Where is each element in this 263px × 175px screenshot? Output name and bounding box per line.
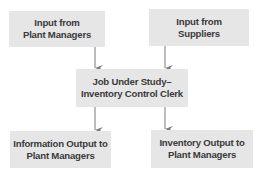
node-label: Job Under Study– Inventory Control Clerk — [81, 76, 183, 100]
node-information-output: Information Output to Plant Managers — [10, 131, 111, 168]
node-label: Inventory Output to Plant Managers — [159, 137, 244, 161]
node-label: Information Output to Plant Managers — [13, 138, 107, 162]
node-job-under-study: Job Under Study– Inventory Control Clerk — [76, 69, 188, 107]
node-label: Input from Plant Managers — [23, 17, 91, 41]
node-label: Input from Suppliers — [176, 16, 221, 40]
node-input-suppliers: Input from Suppliers — [149, 9, 249, 46]
node-input-plant-managers: Input from Plant Managers — [9, 11, 105, 47]
node-inventory-output: Inventory Output to Plant Managers — [151, 130, 253, 168]
